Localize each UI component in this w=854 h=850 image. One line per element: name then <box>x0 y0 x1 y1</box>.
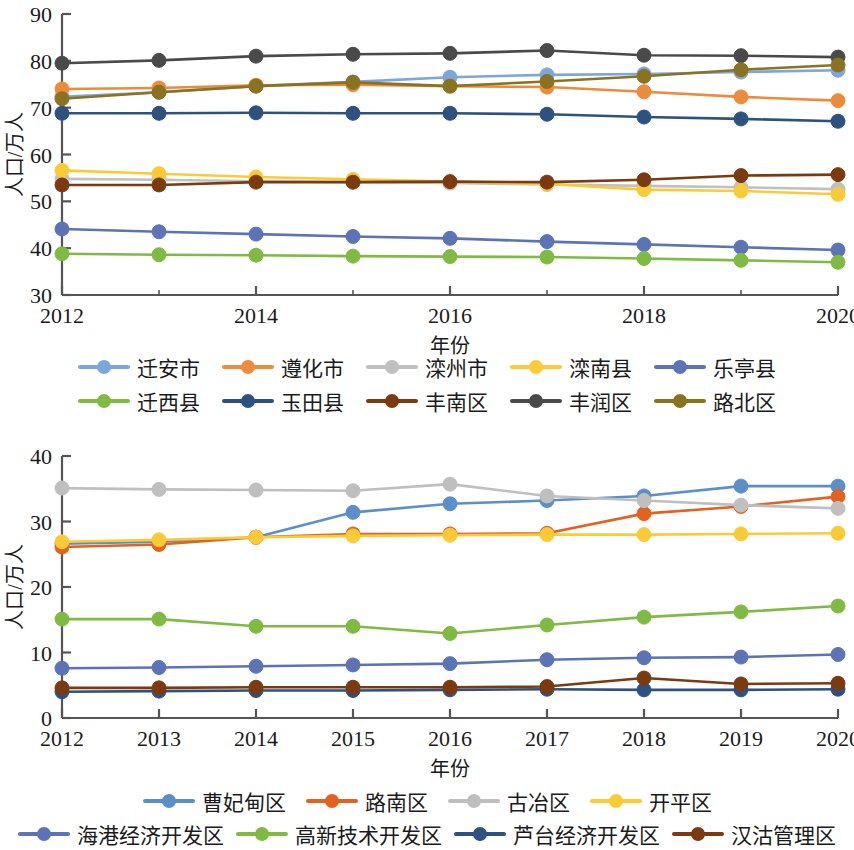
data-point <box>443 46 457 60</box>
legend-item-迁西县[interactable]: 迁西县 <box>78 386 200 416</box>
data-point <box>249 106 263 120</box>
line-plot-bottom: 0102030402012201320142015201620172018201… <box>0 440 854 785</box>
data-point <box>540 489 554 503</box>
y-tick-label: 40 <box>30 236 52 261</box>
legend-marker-icon <box>510 394 562 408</box>
legend-item-海港经济开发区[interactable]: 海港经济开发区 <box>18 819 224 849</box>
series-9 <box>55 44 845 71</box>
data-point <box>55 92 69 106</box>
data-point <box>55 163 69 177</box>
y-tick-label: 20 <box>30 575 52 600</box>
data-point <box>540 74 554 88</box>
legend-item-滦南县[interactable]: 滦南县 <box>510 352 632 382</box>
legend-label: 路北区 <box>713 386 776 416</box>
legend-item-滦州市[interactable]: 滦州市 <box>366 352 488 382</box>
data-point <box>346 505 360 519</box>
data-point <box>152 612 166 626</box>
data-point <box>55 661 69 675</box>
data-point <box>637 85 651 99</box>
legend-item-高新技术开发区[interactable]: 高新技术开发区 <box>236 819 442 849</box>
series-5 <box>55 647 845 675</box>
y-tick-label: 60 <box>30 143 52 168</box>
series-4 <box>55 526 845 549</box>
data-point <box>540 528 554 542</box>
x-tick-label: 2018 <box>622 726 666 751</box>
data-point <box>734 677 748 691</box>
legend-item-开平区[interactable]: 开平区 <box>590 786 712 816</box>
data-point <box>443 106 457 120</box>
legend-marker-icon <box>590 794 642 808</box>
legend-item-路北区[interactable]: 路北区 <box>654 386 776 416</box>
data-point <box>249 227 263 241</box>
data-point <box>443 231 457 245</box>
legend-item-迁安市[interactable]: 迁安市 <box>78 352 200 382</box>
data-point <box>637 507 651 521</box>
legend-marker-icon <box>672 827 724 841</box>
legend-item-古冶区[interactable]: 古冶区 <box>448 786 570 816</box>
y-axis-title: 人口/万人 <box>4 112 26 198</box>
data-point <box>734 63 748 77</box>
legend-label: 玉田县 <box>281 386 344 416</box>
data-point <box>249 530 263 544</box>
data-point <box>55 178 69 192</box>
data-point <box>346 529 360 543</box>
legend-item-玉田县[interactable]: 玉田县 <box>222 386 344 416</box>
x-tick-label: 2017 <box>525 726 569 751</box>
x-tick-label: 2016 <box>428 303 472 328</box>
data-point <box>55 535 69 549</box>
legend-label: 遵化市 <box>281 352 344 382</box>
legend-label: 丰润区 <box>569 386 632 416</box>
data-point <box>152 681 166 695</box>
data-point <box>734 605 748 619</box>
data-point <box>637 528 651 542</box>
legend-label: 开平区 <box>649 786 712 816</box>
legend-label: 芦台经济开发区 <box>513 819 660 849</box>
legend-item-遵化市[interactable]: 遵化市 <box>222 352 344 382</box>
legend-marker-icon <box>448 794 500 808</box>
legend-marker-icon <box>222 360 274 374</box>
data-point <box>55 56 69 70</box>
legend-item-丰南区[interactable]: 丰南区 <box>366 386 488 416</box>
data-point <box>637 671 651 685</box>
data-point <box>55 481 69 495</box>
data-point <box>734 498 748 512</box>
data-point <box>734 253 748 267</box>
data-point <box>346 249 360 263</box>
data-point <box>249 175 263 189</box>
data-point <box>831 168 845 182</box>
data-point <box>249 619 263 633</box>
data-point <box>540 618 554 632</box>
legend-item-汉沽管理区[interactable]: 汉沽管理区 <box>672 819 836 849</box>
legend-item-芦台经济开发区[interactable]: 芦台经济开发区 <box>454 819 660 849</box>
y-tick-label: 90 <box>30 2 52 27</box>
data-point <box>152 482 166 496</box>
data-point <box>637 110 651 124</box>
data-point <box>637 173 651 187</box>
data-point <box>152 85 166 99</box>
legend-item-丰润区[interactable]: 丰润区 <box>510 386 632 416</box>
data-point <box>831 676 845 690</box>
data-point <box>637 651 651 665</box>
legend-marker-icon <box>654 360 706 374</box>
data-point <box>540 653 554 667</box>
data-point <box>734 112 748 126</box>
series-10 <box>55 58 845 106</box>
legend-row: 迁西县玉田县丰南区丰润区路北区 <box>0 386 854 416</box>
legend-item-乐亭县[interactable]: 乐亭县 <box>654 352 776 382</box>
data-point <box>831 94 845 108</box>
data-point <box>152 106 166 120</box>
x-tick-label: 2018 <box>622 303 666 328</box>
legend-item-路南区[interactable]: 路南区 <box>306 786 428 816</box>
data-point <box>831 58 845 72</box>
data-point <box>540 107 554 121</box>
data-point <box>831 114 845 128</box>
data-point <box>443 657 457 671</box>
data-point <box>831 501 845 515</box>
legend-item-曹妃甸区[interactable]: 曹妃甸区 <box>143 786 286 816</box>
data-point <box>443 497 457 511</box>
line-plot-top: 3040506070809020122014201620182020年份人口/万… <box>0 0 854 345</box>
data-point <box>346 229 360 243</box>
data-point <box>831 187 845 201</box>
x-axis-title: 年份 <box>430 758 470 780</box>
data-point <box>55 612 69 626</box>
